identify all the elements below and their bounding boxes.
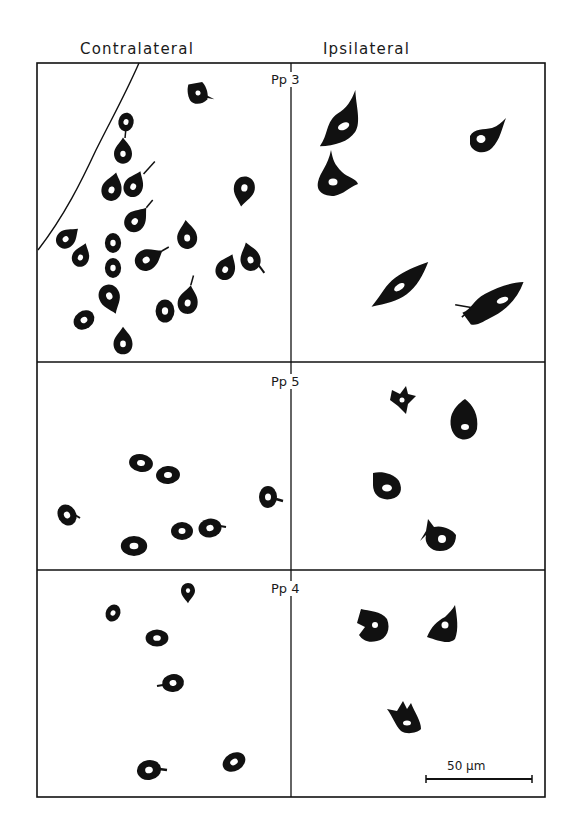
pp5-ipsilateral-cells <box>373 386 477 551</box>
scale-bar-label: 50 µm <box>447 759 485 773</box>
pp3-contralateral-cells <box>52 81 264 355</box>
pp5-contralateral-cells <box>54 452 283 556</box>
panel-label-pp5: Pp 5 <box>269 374 302 389</box>
neuron-drawings-figure <box>0 0 577 831</box>
pp3-ipsilateral-cells <box>305 90 532 329</box>
pp4-contralateral-cells <box>103 583 249 782</box>
panel-label-pp3: Pp 3 <box>269 72 302 87</box>
panel-label-pp4: Pp 4 <box>269 581 302 596</box>
pp4-ipsilateral-cells <box>357 605 457 733</box>
scale-bar <box>426 775 532 783</box>
